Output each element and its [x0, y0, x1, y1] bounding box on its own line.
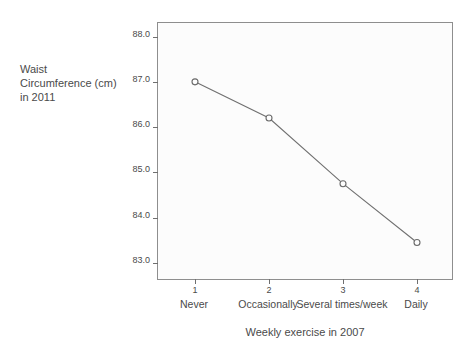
- y-axis-tick-label: 87.0: [132, 75, 150, 84]
- series-layer: [158, 23, 454, 281]
- y-axis-title: Waist Circumference (cm) in 2011: [20, 62, 148, 104]
- x-axis-tick-label: 1: [175, 286, 215, 295]
- series-line-waist-circumference: [195, 82, 417, 243]
- y-axis-tick-label: 88.0: [132, 30, 150, 39]
- data-point-marker: [340, 181, 346, 187]
- plot-area: 88.087.086.085.084.083.0 1234: [157, 22, 453, 280]
- x-axis-title: Weekly exercise in 2007: [157, 326, 453, 339]
- y-axis-tick-label: 84.0: [132, 211, 150, 220]
- x-axis-tick-label: 2: [249, 286, 289, 295]
- series-marker-group: [192, 79, 420, 246]
- data-point-marker: [266, 115, 272, 121]
- x-category-label: Several times/week: [296, 298, 387, 310]
- x-axis-tick-label: 3: [323, 286, 363, 295]
- y-axis-tick-label: 86.0: [132, 120, 150, 129]
- y-axis-tick-label: 85.0: [132, 165, 150, 174]
- x-category-label: Daily: [404, 298, 427, 310]
- x-category-label-group: NeverOccasionallySeveral times/weekDaily: [157, 298, 453, 312]
- x-category-label: Never: [180, 298, 208, 310]
- y-axis-tick-label: 83.0: [132, 256, 150, 265]
- data-point-marker: [192, 79, 198, 85]
- data-point-marker: [414, 240, 420, 246]
- x-axis-tick-label: 4: [397, 286, 437, 295]
- chart-figure: Waist Circumference (cm) in 2011 88.087.…: [0, 0, 465, 360]
- x-category-label: Occasionally: [238, 298, 298, 310]
